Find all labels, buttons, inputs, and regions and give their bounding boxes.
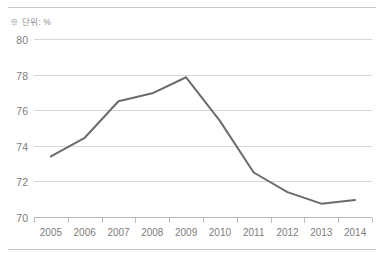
y-tick-label-72: 72 bbox=[16, 176, 28, 188]
data-line-series-0 bbox=[51, 77, 355, 203]
x-tick-label-2009: 2009 bbox=[175, 227, 198, 238]
data-series-group bbox=[51, 77, 355, 203]
x-tick-label-2014: 2014 bbox=[344, 227, 367, 238]
x-axis-tick-labels: 2005200620072008200920102011201220132014 bbox=[40, 227, 367, 238]
chart-figure: ※ 단위: % 707274767880 2005200620072008200… bbox=[0, 0, 384, 261]
line-chart-svg: 707274767880 200520062007200820092010201… bbox=[0, 0, 384, 261]
y-tick-label-78: 78 bbox=[16, 70, 28, 82]
x-tick-label-2008: 2008 bbox=[141, 227, 164, 238]
x-tick-label-2012: 2012 bbox=[276, 227, 299, 238]
x-tick-label-2010: 2010 bbox=[209, 227, 232, 238]
plot-area: 707274767880 200520062007200820092010201… bbox=[0, 0, 384, 261]
y-axis-tick-labels: 707274767880 bbox=[16, 34, 28, 224]
x-axis-group bbox=[34, 218, 373, 223]
x-tick-label-2013: 2013 bbox=[310, 227, 333, 238]
x-tick-label-2006: 2006 bbox=[74, 227, 97, 238]
y-tick-label-70: 70 bbox=[16, 212, 28, 224]
y-tick-label-74: 74 bbox=[16, 141, 28, 153]
gridlines-group bbox=[34, 40, 372, 182]
y-tick-label-76: 76 bbox=[16, 105, 28, 117]
y-tick-label-80: 80 bbox=[16, 34, 28, 46]
x-tick-label-2005: 2005 bbox=[40, 227, 63, 238]
x-tick-label-2011: 2011 bbox=[243, 227, 265, 238]
x-tick-label-2007: 2007 bbox=[107, 227, 130, 238]
